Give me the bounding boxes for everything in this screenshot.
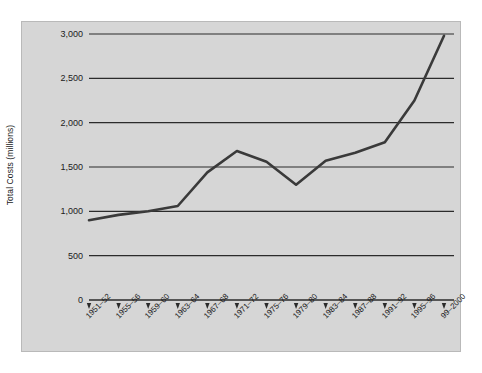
- data-series-line: [89, 36, 444, 220]
- y-axis-tick-label: 3,000: [14, 29, 83, 39]
- y-axis-tick-label: 1,500: [14, 162, 83, 172]
- y-axis-tick-label: 0: [14, 295, 83, 305]
- y-axis-tick-label: 1,000: [14, 206, 83, 216]
- y-axis-tick-label: 2,000: [14, 118, 83, 128]
- chart-page: Total Costs (millions) 05001,0001,5002,0…: [0, 0, 482, 373]
- y-axis-tick-label: 2,500: [14, 73, 83, 83]
- y-axis-tick-label: 500: [14, 251, 83, 261]
